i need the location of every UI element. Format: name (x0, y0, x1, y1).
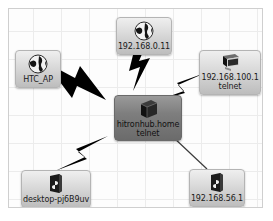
laptop-icon (46, 173, 66, 195)
router-box-icon (137, 98, 159, 120)
globe-icon (133, 20, 155, 42)
node-label-192-168-0-11: 192.168.0.11 (118, 42, 170, 51)
node-htc-ap[interactable]: HTC_AP (15, 50, 61, 88)
link-line-center-bottomright (173, 137, 207, 169)
monitor-icon (218, 53, 242, 73)
node-192-168-0-11[interactable]: 192.168.0.11 (116, 17, 172, 55)
node-label-192-168-56-1: 192.168.56.1 (191, 194, 243, 203)
node-hitronhub-home[interactable]: hitronhub.home telnet (114, 95, 182, 141)
network-diagram[interactable]: hitronhub.home telnet 192.168.0.11 (8, 8, 263, 208)
globe-icon (27, 53, 49, 75)
node-label-192-168-100-1: 192.168.100.1 (201, 73, 258, 82)
node-sublabel-192-168-100-1: telnet (219, 82, 242, 91)
node-desktop-pj6b9uv[interactable]: desktop-pj6B9uv (21, 170, 91, 208)
node-label-desktop-pj6b9uv: desktop-pj6B9uv (23, 195, 89, 204)
link-bolt-center-bottomleft (55, 136, 108, 171)
node-192-168-100-1[interactable]: 192.168.100.1 telnet (199, 50, 261, 95)
node-sublabel-hitronhub-home: telnet (137, 129, 160, 138)
page-margin (0, 210, 273, 221)
node-192-168-56-1[interactable]: 192.168.56.1 (189, 169, 245, 207)
laptop-icon (207, 172, 227, 194)
node-label-htc-ap: HTC_AP (23, 75, 53, 84)
screenshot-canvas: hitronhub.home telnet 192.168.0.11 (0, 0, 273, 221)
node-label-hitronhub-home: hitronhub.home (117, 120, 180, 129)
